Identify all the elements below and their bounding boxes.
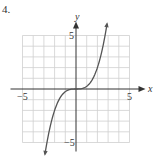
y-tick-label-neg5: −5 <box>64 138 75 148</box>
x-tick-label-neg5: −5 <box>17 92 28 102</box>
curve-arrow-top-icon <box>104 22 108 27</box>
curve-arrow-bottom-icon <box>43 150 47 155</box>
x-tick-label-5: 5 <box>127 92 132 102</box>
y-tick-label-5: 5 <box>69 31 74 41</box>
plot-area <box>0 0 161 160</box>
y-axis-arrow-icon <box>73 22 79 29</box>
x-axis-arrow-icon <box>139 86 146 92</box>
y-axis-label: y <box>75 12 79 22</box>
x-axis-label: x <box>148 84 152 94</box>
